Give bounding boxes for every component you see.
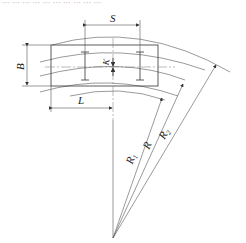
svg-text:R2: R2 (155, 126, 173, 143)
label-S: S (110, 12, 116, 24)
inner-arc (70, 91, 165, 100)
label-K: K (100, 57, 111, 67)
caption-fragment: ··· ··· ··· ··· ··· ··· ··· ··· ··· ··· (2, 0, 101, 8)
label-R2-group: R2 (155, 126, 173, 143)
label-B: B (14, 63, 26, 70)
arc-3 (40, 66, 185, 80)
radius-R2 (113, 65, 216, 238)
diagram-canvas: ··· ··· ··· ··· ··· ··· ··· ··· ··· ··· … (0, 0, 246, 243)
label-R1-group: R1 (123, 152, 140, 167)
arc-2 (40, 53, 205, 70)
svg-text:R1: R1 (123, 152, 140, 167)
curved-track-vehicle-diagram: ··· ··· ··· ··· ··· ··· ··· ··· ··· ··· … (0, 0, 246, 243)
arc-4 (40, 83, 178, 96)
label-L: L (77, 94, 84, 106)
